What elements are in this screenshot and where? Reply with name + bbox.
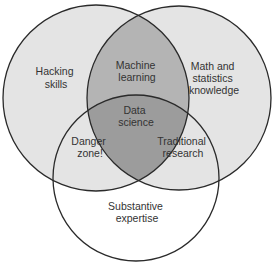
- math-label: Math and statistics knowledge: [189, 60, 239, 96]
- traditional-research-label: Traditional research: [157, 135, 209, 159]
- substantive-label: Substantive expertise: [108, 200, 166, 224]
- machine-learning-label: Machine learning: [116, 59, 159, 83]
- venn-diagram: Hacking skills Math and statistics knowl…: [0, 0, 275, 266]
